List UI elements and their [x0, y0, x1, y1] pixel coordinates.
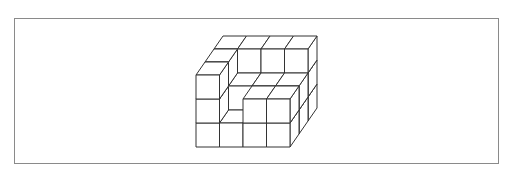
- cube-front-face: [243, 99, 267, 123]
- cube-front-face: [267, 99, 291, 123]
- cube-front-face: [261, 49, 285, 73]
- cube-front-face: [220, 123, 244, 147]
- cube-front-face: [196, 123, 220, 147]
- cube-front-face: [238, 49, 262, 73]
- cube-front-face: [196, 99, 220, 123]
- cube-figure: [0, 0, 513, 174]
- cube-front-face: [285, 49, 309, 73]
- cube-front-face: [267, 123, 291, 147]
- cube-front-face: [243, 123, 267, 147]
- cube-front-face: [196, 75, 220, 99]
- cube-stack: [196, 36, 317, 147]
